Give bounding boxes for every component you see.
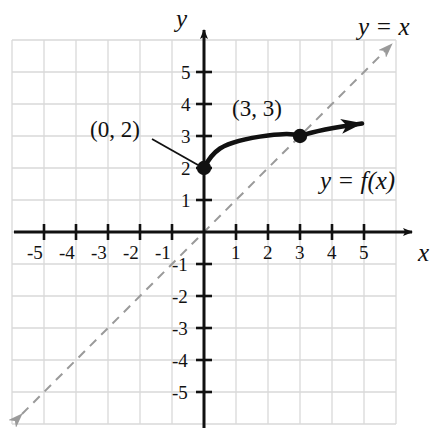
y-axis-name: y (176, 6, 187, 31)
graph-figure: y x y = x y = f(x) (0, 2) (3, 3) -5 -4 -… (0, 0, 440, 440)
x-tick-label--1: -1 (155, 243, 171, 262)
y-tick-label-2: 2 (181, 159, 191, 178)
identity-line-y-equals-x (22, 44, 392, 414)
x-tick-label-1: 1 (231, 243, 241, 262)
point-marker-3-3 (293, 129, 307, 143)
coordinate-plane (0, 0, 440, 440)
x-tick-label-3: 3 (295, 243, 305, 262)
point-label-3-3: (3, 3) (232, 97, 282, 120)
x-tick-label-2: 2 (263, 243, 273, 262)
y-tick-label--3: -3 (172, 319, 188, 338)
x-tick-label--3: -3 (91, 243, 107, 262)
y-tick-label--4: -4 (172, 351, 188, 370)
identity-line-label: y = x (358, 14, 410, 39)
point-marker-0-2 (197, 161, 211, 175)
function-label: y = f(x) (320, 168, 395, 193)
y-tick-label-1: 1 (181, 191, 191, 210)
y-tick-label--2: -2 (172, 287, 188, 306)
x-tick-label--5: -5 (27, 243, 43, 262)
x-tick-label--2: -2 (123, 243, 139, 262)
y-tick-label--1: -1 (172, 255, 188, 274)
x-axis-name: x (418, 240, 429, 265)
y-tick-label-5: 5 (181, 63, 191, 82)
x-tick-label-4: 4 (327, 243, 337, 262)
function-curve (204, 124, 362, 169)
x-tick-label--4: -4 (59, 243, 75, 262)
point-label-0-2: (0, 2) (90, 118, 140, 141)
y-tick-label-4: 4 (181, 95, 191, 114)
y-tick-label-3: 3 (181, 127, 191, 146)
y-tick-label--5: -5 (172, 383, 188, 402)
leader-line-intercept (152, 139, 198, 165)
x-tick-label-5: 5 (359, 243, 369, 262)
